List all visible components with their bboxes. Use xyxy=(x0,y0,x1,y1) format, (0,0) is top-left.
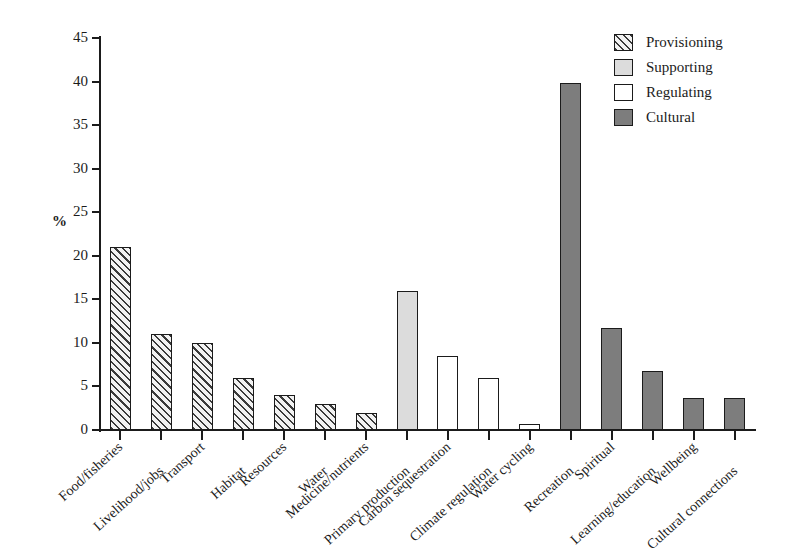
bar xyxy=(192,343,213,430)
bar xyxy=(397,291,418,430)
y-axis-tick xyxy=(92,168,100,170)
legend-item-label: Cultural xyxy=(646,110,695,125)
bar xyxy=(724,398,745,430)
y-axis-tick-label-text: 10 xyxy=(36,335,88,350)
legend-swatch-cultural xyxy=(614,109,633,126)
y-axis-tick-label: 5 xyxy=(30,378,88,393)
x-axis-tick xyxy=(160,431,162,440)
x-axis-tick xyxy=(611,431,613,440)
y-axis-line xyxy=(99,36,101,432)
y-axis-tick-label-text: 30 xyxy=(36,161,88,176)
y-axis-tick-label: 10 xyxy=(30,335,88,350)
y-axis-tick-label: 15 xyxy=(30,291,88,306)
x-axis-tick xyxy=(242,431,244,440)
x-axis-label: Livelihood/jobs xyxy=(92,464,167,534)
y-axis-tick-label-text: 20 xyxy=(36,248,88,263)
bar xyxy=(274,395,295,430)
chart-legend: ProvisioningSupportingRegulatingCultural xyxy=(614,30,789,130)
bar xyxy=(233,378,254,430)
x-axis-tick xyxy=(447,431,449,440)
y-axis-tick xyxy=(92,298,100,300)
x-axis-tick xyxy=(570,431,572,440)
y-axis-tick-label-text: 5 xyxy=(36,378,88,393)
x-axis-label: Recreation xyxy=(522,464,576,515)
legend-item-label: Supporting xyxy=(646,60,713,75)
bar xyxy=(478,378,499,430)
y-axis-tick xyxy=(92,429,100,431)
bar xyxy=(519,424,540,430)
y-axis-tick-label: 40 xyxy=(30,74,88,89)
bar xyxy=(437,356,458,430)
x-axis-label: Wellbeing xyxy=(647,440,699,489)
x-axis-tick xyxy=(283,431,285,440)
y-axis-tick-label-text: 25 xyxy=(36,204,88,219)
x-axis-tick xyxy=(652,431,654,440)
y-axis-tick xyxy=(92,211,100,213)
x-axis-label: Spiritual xyxy=(572,440,617,483)
x-axis-tick xyxy=(119,431,121,440)
x-axis-tick xyxy=(201,431,203,440)
y-axis-tick-label: 30 xyxy=(30,161,88,176)
y-axis-tick-label: 0 xyxy=(30,422,88,437)
bar xyxy=(315,404,336,430)
legend-item: Provisioning xyxy=(614,30,789,55)
legend-swatch-supporting xyxy=(614,59,633,76)
bar xyxy=(151,334,172,430)
bar xyxy=(356,413,377,430)
x-axis-tick xyxy=(365,431,367,440)
bar xyxy=(110,247,131,430)
bar xyxy=(560,83,581,430)
y-axis-tick xyxy=(92,124,100,126)
y-axis-tick xyxy=(92,255,100,257)
legend-item-label: Provisioning xyxy=(646,35,723,50)
y-axis-tick-label: 45 xyxy=(30,30,88,45)
y-axis-tick xyxy=(92,342,100,344)
bar xyxy=(683,398,704,430)
legend-swatch-provisioning xyxy=(614,34,633,51)
legend-item: Regulating xyxy=(614,80,789,105)
y-axis-tick-label-text: 15 xyxy=(36,291,88,306)
bar xyxy=(642,371,663,430)
x-axis-label: Resources xyxy=(237,440,289,489)
y-axis-tick xyxy=(92,81,100,83)
y-axis-tick-label-text: 35 xyxy=(36,117,88,132)
legend-item-label: Regulating xyxy=(646,85,712,100)
legend-item: Supporting xyxy=(614,55,789,80)
y-axis-tick-label-text: 40 xyxy=(36,74,88,89)
x-axis-tick xyxy=(734,431,736,440)
y-axis-tick xyxy=(92,385,100,387)
y-axis-tick xyxy=(92,37,100,39)
y-axis-tick-label: 35 xyxy=(30,117,88,132)
bar-chart: % 051015202530354045 Food/fisheriesLivel… xyxy=(0,0,791,555)
x-axis-tick xyxy=(324,431,326,440)
legend-swatch-regulating xyxy=(614,84,633,101)
y-axis-tick-label: 20 xyxy=(30,248,88,263)
y-axis-tick-label: 25 xyxy=(30,204,88,219)
y-axis-tick-label-text: 45 xyxy=(36,30,88,45)
bar xyxy=(601,328,622,430)
x-axis-tick xyxy=(529,431,531,440)
x-axis-tick xyxy=(488,431,490,440)
x-axis-tick xyxy=(406,431,408,440)
legend-item: Cultural xyxy=(614,105,789,130)
x-axis-tick xyxy=(693,431,695,440)
y-axis-tick-label-text: 0 xyxy=(36,422,88,437)
x-axis-label: Transport xyxy=(158,440,207,486)
x-axis-label: Food/fisheries xyxy=(57,440,126,504)
